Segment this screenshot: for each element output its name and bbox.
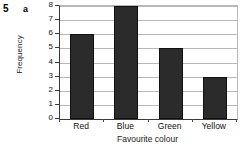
y-axis-tick-label: 0 — [44, 114, 53, 122]
plot-area — [59, 5, 238, 120]
bar-slot — [60, 6, 104, 119]
y-axis-tick-labels: 012345678 — [44, 5, 53, 118]
bar-chart-figure: Frequency 012345678 RedBlueGreenYellow F… — [0, 0, 245, 151]
x-axis-tick-mark — [236, 119, 237, 122]
bar-slot — [193, 6, 237, 119]
bar-slot — [149, 6, 193, 119]
x-axis-tick-label: Red — [59, 121, 103, 132]
y-axis-tick-label: 8 — [44, 1, 53, 9]
bar-yellow — [203, 77, 227, 119]
y-axis-tick-label: 7 — [44, 15, 53, 23]
y-axis-tick-label: 5 — [44, 43, 53, 51]
bar-green — [159, 48, 183, 119]
x-axis-tick-label: Yellow — [192, 121, 236, 132]
bar-blue — [114, 6, 138, 119]
y-axis-tick-label: 4 — [44, 58, 53, 66]
y-axis-tick-label: 1 — [44, 100, 53, 108]
y-axis-tick-label: 2 — [44, 86, 53, 94]
x-axis-tick-labels: RedBlueGreenYellow — [59, 121, 236, 132]
y-axis-tick-label: 6 — [44, 29, 53, 37]
y-axis-tick-label: 3 — [44, 72, 53, 80]
bar-slot — [104, 6, 148, 119]
x-axis-tick-label: Blue — [103, 121, 147, 132]
x-axis-title: Favourite colour — [59, 134, 236, 145]
bar-red — [70, 34, 94, 119]
y-axis-title: Frequency — [15, 24, 24, 86]
x-axis-tick-label: Green — [148, 121, 192, 132]
bar-series — [60, 6, 237, 119]
